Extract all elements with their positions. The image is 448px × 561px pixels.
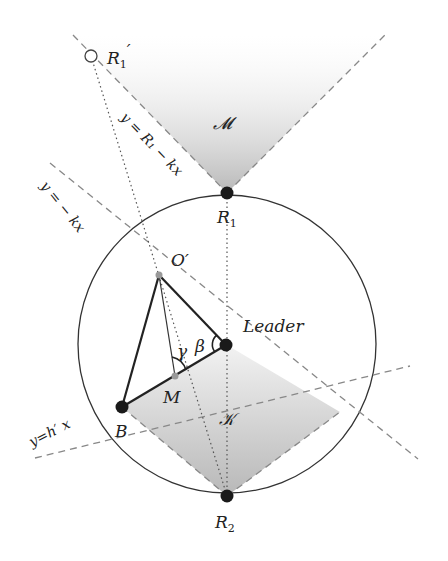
point-r1	[221, 187, 234, 200]
label-b: B	[114, 421, 128, 441]
label-r2: R2	[214, 512, 235, 535]
point-r2	[221, 490, 234, 503]
label-eq-h-prime: y=h′ x	[25, 415, 73, 450]
label-beta: β	[194, 336, 205, 356]
label-leader: Leader	[242, 316, 304, 336]
label-oprime: O′	[171, 250, 189, 270]
point-leader	[220, 339, 233, 352]
point-b	[116, 401, 129, 414]
diagram-canvas: R1′ R1 R2 O′ Leader M B γ β 𝓜 𝒦 y = R₁ −…	[0, 0, 448, 561]
label-r1: R1	[216, 207, 237, 230]
point-oprime	[156, 272, 163, 279]
label-gamma: γ	[177, 341, 188, 361]
label-m: M	[162, 387, 181, 407]
label-eq-neg-kx: y = − kx	[37, 177, 89, 235]
angle-arc-beta	[212, 335, 217, 352]
point-m	[172, 373, 179, 380]
point-r1prime	[85, 50, 97, 62]
